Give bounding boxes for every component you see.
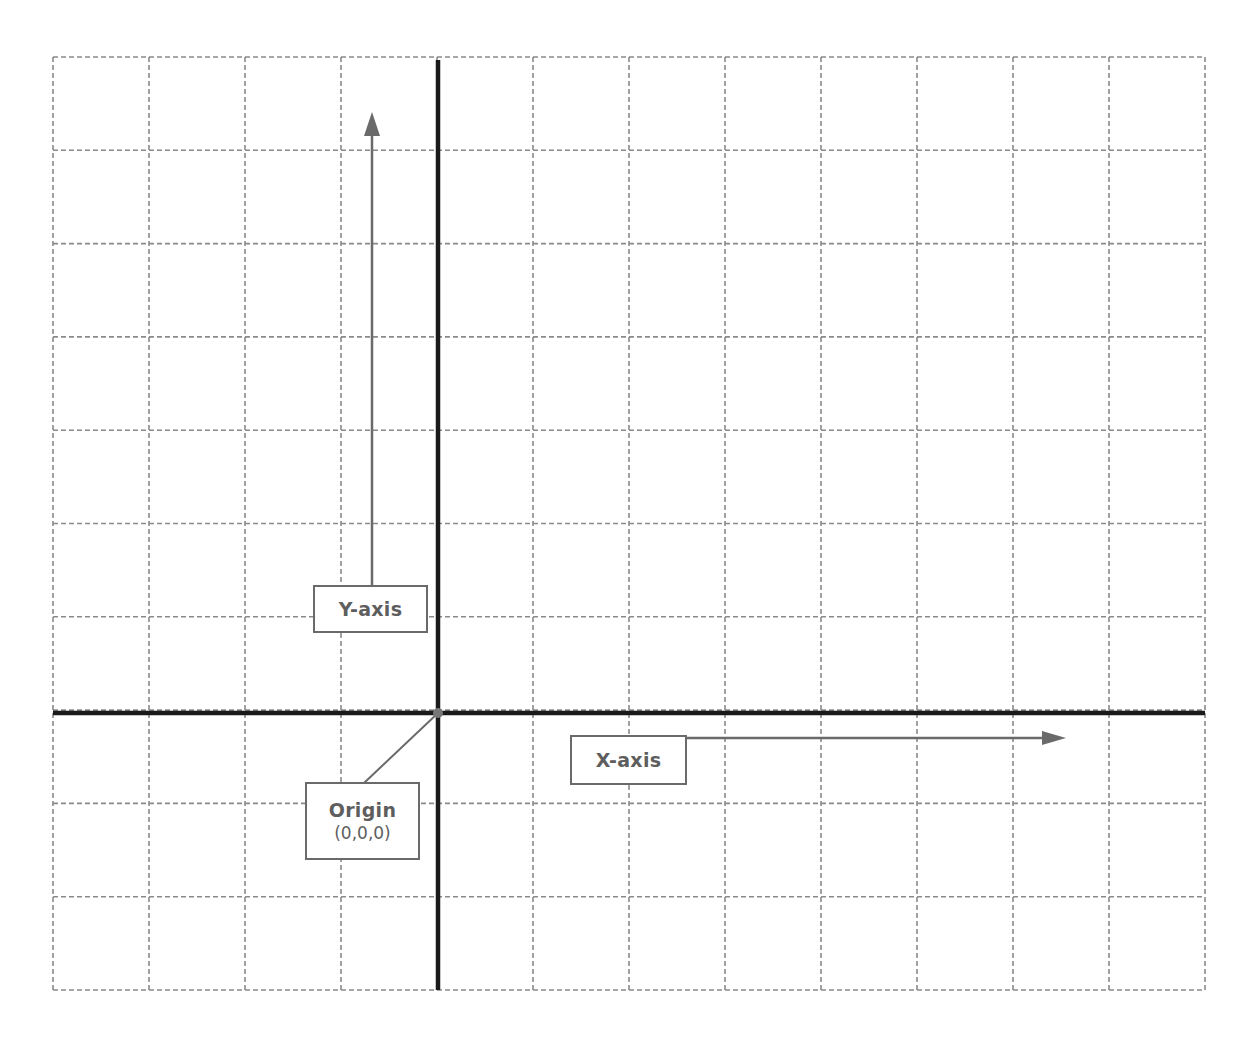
coordinate-grid-diagram (0, 0, 1248, 1046)
origin-point (433, 708, 443, 718)
grid-lines (53, 57, 1205, 990)
direction-arrows (364, 112, 1066, 745)
origin-label-box: Origin (0,0,0) (305, 782, 420, 860)
origin-leader-line (364, 713, 438, 783)
arrow-right-icon (1042, 731, 1066, 745)
origin-coordinates: (0,0,0) (334, 823, 391, 843)
x-axis-label-box: X-axis (570, 735, 687, 785)
y-axis-label: Y-axis (339, 598, 403, 620)
origin-label: Origin (329, 799, 396, 821)
arrow-up-icon (364, 112, 380, 136)
x-axis-label: X-axis (596, 749, 662, 771)
y-axis-label-box: Y-axis (313, 585, 428, 633)
